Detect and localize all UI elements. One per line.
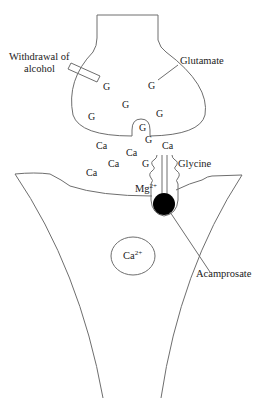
calcium-ion-label: Ca2+ — [123, 249, 142, 261]
calcium-ion: Ca — [108, 158, 120, 169]
calcium-ion: Ca — [96, 140, 108, 151]
withdrawal-label-2: alcohol — [24, 63, 55, 74]
acamprosate-blocker — [153, 193, 175, 215]
acamprosate-label: Acamprosate — [196, 268, 252, 279]
postsynaptic-membrane — [15, 173, 152, 196]
calcium-ion: Ca — [86, 167, 98, 178]
glycine-label: Glycine — [178, 158, 212, 169]
glutamate-pointer — [158, 65, 178, 80]
glutamate-molecule: G — [139, 122, 146, 133]
acamprosate-pointer — [170, 212, 210, 272]
calcium-ion: Ca — [162, 140, 174, 151]
glutamate-molecule: G — [142, 158, 149, 169]
postsynaptic-membrane-right — [176, 175, 242, 190]
synapse-diagram: Withdrawal of alcohol Glutamate Glycine … — [0, 0, 264, 402]
glutamate-molecule: G — [88, 111, 95, 122]
calcium-ion: Ca — [126, 147, 138, 158]
withdrawal-label-1: Withdrawal of — [9, 51, 70, 62]
postsynaptic-left-wall — [15, 174, 103, 398]
glutamate-molecule: G — [145, 134, 152, 145]
glutamate-molecule: G — [156, 108, 163, 119]
mg-label: Mg2+ — [135, 182, 157, 194]
withdrawal-bar — [68, 63, 100, 82]
glutamate-molecule: G — [103, 81, 110, 92]
glutamate-molecule: G — [148, 80, 155, 91]
glutamate-label: Glutamate — [180, 55, 224, 66]
glutamate-molecule: G — [122, 99, 129, 110]
